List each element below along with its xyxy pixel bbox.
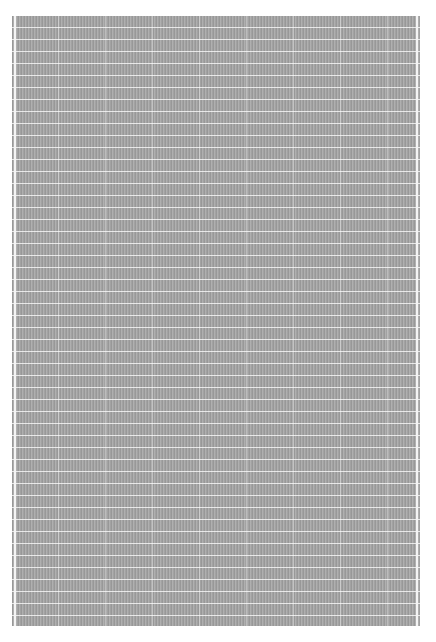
left-edge-line (14, 16, 16, 626)
textured-swatch (12, 16, 420, 626)
right-edge-line (416, 16, 418, 626)
